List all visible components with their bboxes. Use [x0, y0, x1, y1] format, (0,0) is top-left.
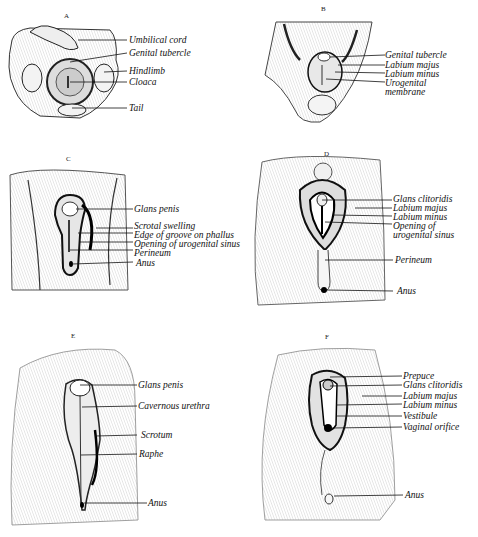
panel-c-drawing: [10, 170, 128, 290]
panel-letter-b: B: [321, 5, 327, 13]
panel-letter-a: A: [64, 12, 70, 20]
label-d-urogenital-sinus: urogenital sinus: [393, 230, 454, 240]
label-e-raphe: Raphe: [139, 449, 163, 459]
label-c-anus: Anus: [136, 258, 155, 268]
label-b-genital-tubercle: Genital tubercle: [385, 50, 447, 60]
label-e-glans-penis: Glans penis: [138, 380, 183, 390]
panel-a-drawing: [9, 26, 118, 118]
label-e-cavernous-urethra: Cavernous urethra: [138, 401, 210, 411]
panel-letter-d: D: [324, 150, 330, 158]
panel-letter-f: F: [325, 333, 330, 341]
label-d-anus: Anus: [397, 286, 416, 296]
label-f-anus: Anus: [405, 490, 424, 500]
label-d-perineum: Perineum: [395, 255, 432, 265]
label-a-hindlimb: Hindlimb: [129, 66, 165, 76]
label-f-vaginal-orifice: Vaginal orifice: [403, 422, 459, 432]
label-f-vestibule: Vestibule: [403, 411, 437, 421]
label-a-cloaca: Cloaca: [129, 77, 156, 87]
label-e-anus: Anus: [148, 498, 167, 508]
label-a-umbilical-cord: Umbilical cord: [129, 35, 186, 45]
label-f-labium-minus: Labium minus: [403, 400, 457, 410]
label-a-tail: Tail: [129, 103, 143, 113]
label-e-scrotum: Scrotum: [141, 430, 172, 440]
label-b-membrane: membrane: [385, 87, 425, 97]
panel-f-drawing: [262, 348, 395, 520]
panel-letter-e: E: [71, 332, 76, 340]
label-c-glans-penis: Glans penis: [134, 204, 179, 214]
label-c-perineum: Perineum: [134, 248, 171, 258]
label-a-genital-tubercle: Genital tubercle: [129, 48, 191, 58]
panel-d-drawing: [255, 156, 385, 305]
panel-letter-c: C: [66, 155, 72, 163]
panel-e-drawing: [11, 349, 138, 525]
label-f-glans-clitoridis: Glans clitoridis: [403, 380, 462, 390]
